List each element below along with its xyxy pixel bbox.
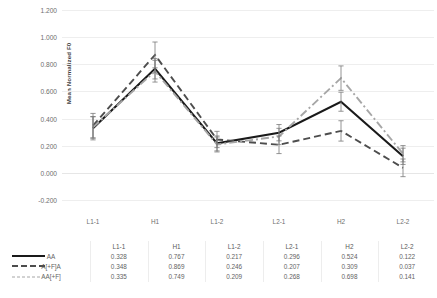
legend-entry: AA (12, 251, 90, 261)
table-cell-value: 0.335 (90, 272, 148, 282)
legend-swatch-solid (12, 255, 45, 257)
y-tick-label: 0.000 (40, 169, 57, 176)
table-cell-value: 0.141 (378, 272, 436, 282)
table-column-separator (263, 241, 264, 282)
y-tick-label: -0.200 (38, 197, 57, 204)
table-column-header: L1-2 (205, 241, 263, 251)
table-cell-value: 0.328 (90, 251, 148, 261)
table-cell-value: 0.246 (205, 261, 263, 271)
x-tick-label: L1-2 (211, 218, 224, 225)
table-cell-value: 0.209 (205, 272, 263, 282)
legend-entry: AA[+F] (12, 272, 90, 282)
table-column-separator (205, 241, 206, 282)
table-column-header: H2 (321, 241, 379, 251)
chart-container: Mean Normalized F0 1.2001.0000.8000.6000… (0, 0, 437, 298)
table-cell-value: 0.309 (321, 261, 379, 271)
table-column-separator (148, 241, 149, 282)
error-bar (338, 66, 343, 90)
table-cell-value: 0.296 (263, 251, 321, 261)
table-cell-value: 0.767 (148, 251, 206, 261)
data-table: L1-1H1L1-2L2-1H2L2-2 AA0.3280.7670.2170.… (12, 241, 436, 282)
table-corner-cell (12, 241, 90, 251)
table-column-header: L2-1 (263, 241, 321, 251)
table-column-header: L1-1 (90, 241, 148, 251)
y-tick-label: 0.400 (40, 115, 57, 122)
table-column-separator (378, 241, 379, 282)
gridline (62, 200, 434, 201)
table-column-header: L2-2 (378, 241, 436, 251)
x-tick-label: H2 (337, 218, 345, 225)
table-cell-value: 0.268 (263, 272, 321, 282)
x-tick-label: L1-1 (87, 218, 100, 225)
table-cell-value: 0.217 (205, 251, 263, 261)
legend-entry: A[+F]A (12, 261, 90, 271)
table-cell-value: 0.207 (263, 261, 321, 271)
table-column-separator (321, 241, 322, 282)
x-tick-label: H1 (151, 218, 159, 225)
table-row: A[+F]A0.3480.8690.2460.2070.3090.037 (12, 261, 436, 271)
y-tick-label: 0.800 (40, 61, 57, 68)
x-tick-label: L2-1 (273, 218, 286, 225)
plot-area: Mean Normalized F0 1.2001.0000.8000.6000… (62, 10, 434, 200)
legend-swatch-dashed (12, 265, 45, 267)
legend-label: AA (47, 253, 56, 260)
legend-data-table: L1-1H1L1-2L2-1H2L2-2 AA0.3280.7670.2170.… (12, 241, 436, 282)
table-cell-value: 0.524 (321, 251, 379, 261)
table-cell-value: 0.749 (148, 272, 206, 282)
table-column-separator (90, 241, 91, 282)
series-line (93, 55, 403, 168)
table-cell-value: 0.122 (378, 251, 436, 261)
y-tick-label: 1.000 (40, 34, 57, 41)
table-cell-value: 0.869 (148, 261, 206, 271)
series-line (93, 69, 403, 157)
table-header-row: L1-1H1L1-2L2-1H2L2-2 (12, 241, 436, 251)
table-cell-value: 0.348 (90, 261, 148, 271)
y-tick-label: 0.600 (40, 88, 57, 95)
series-lines (62, 10, 434, 200)
y-tick-label: 1.200 (40, 7, 57, 14)
table-column-header: H1 (148, 241, 206, 251)
y-tick-label: 0.200 (40, 142, 57, 149)
table-row: AA[+F]0.3350.7490.2090.2680.6980.141 (12, 272, 436, 282)
x-tick-label: L2-2 (397, 218, 410, 225)
legend-swatch-dashdot (12, 276, 45, 277)
table-cell-value: 0.698 (321, 272, 379, 282)
table-cell-value: 0.037 (378, 261, 436, 271)
table-row: AA0.3280.7670.2170.2960.5240.122 (12, 251, 436, 261)
